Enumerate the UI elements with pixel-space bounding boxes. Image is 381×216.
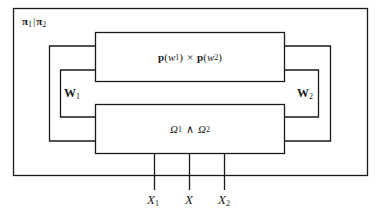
bottom-box-label: Ω1 ∧ Ω2 — [96, 105, 284, 153]
w2-loop-label: W2 — [297, 87, 313, 101]
diagram-canvas: π1|π2 p(w1) × p(w2) Ω1 ∧ Ω2 W1 W2 X1 X X… — [0, 0, 381, 216]
omega2-subscript: 2 — [206, 125, 210, 134]
x2-letter: X — [218, 192, 226, 207]
w2-symbol: w — [207, 51, 214, 63]
w2-loop-subscript: 2 — [309, 92, 313, 101]
omega2-symbol: Ω — [198, 123, 206, 135]
input-label-x2: X2 — [218, 193, 230, 208]
paren-close: ) — [218, 51, 222, 63]
top-box-label: p(w1) × p(w2) — [96, 33, 284, 81]
x1-letter: X — [147, 192, 155, 207]
input-label-x1: X1 — [147, 193, 159, 208]
omega1-symbol: Ω — [170, 123, 178, 135]
input-label-x: X — [185, 193, 193, 206]
w1-letter: W — [64, 86, 76, 100]
w1-symbol: w — [168, 51, 175, 63]
wedge-symbol: ∧ — [182, 123, 198, 136]
w2-letter: W — [297, 86, 309, 100]
times-symbol: × — [183, 51, 197, 63]
x2-subscript: 2 — [226, 199, 230, 208]
w1-loop-label: W1 — [64, 87, 80, 101]
x1-subscript: 1 — [155, 199, 159, 208]
w1-loop-subscript: 1 — [76, 92, 80, 101]
x-letter: X — [185, 192, 193, 207]
outer-label: π1|π2 — [22, 16, 46, 29]
pi2-subscript: 2 — [42, 20, 46, 29]
